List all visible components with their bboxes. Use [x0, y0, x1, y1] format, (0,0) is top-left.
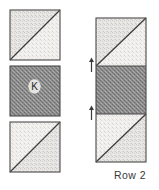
assembled-row-strip — [89, 18, 146, 162]
individual-blocks-column — [10, 10, 60, 172]
strip-middle-fill — [96, 66, 146, 114]
row-caption: Row 2 — [104, 169, 156, 182]
quilt-row-assembly-diagram — [0, 0, 159, 190]
strip-segment-half-square-triangle-bottom — [96, 114, 146, 162]
half-square-triangle-block-top — [10, 10, 60, 60]
half-square-triangle-block-bottom — [10, 122, 60, 172]
dark-square-block-k — [10, 66, 60, 116]
strip-segment-dark-square — [96, 66, 146, 114]
block-middle-label-halo — [28, 79, 40, 93]
strip-segment-half-square-triangle-top — [96, 18, 146, 66]
